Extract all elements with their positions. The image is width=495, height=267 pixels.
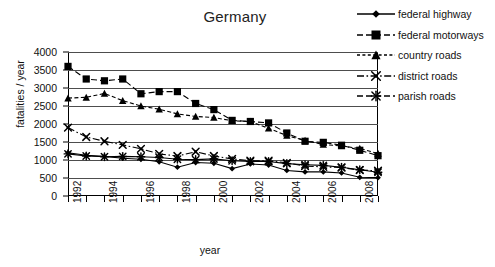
x-tick-mark (305, 196, 306, 202)
legend-marker-x-cross-icon (356, 69, 396, 83)
x-tick-mark (378, 196, 379, 202)
x-axis-title: year (150, 244, 270, 256)
asterisk-marker (210, 155, 218, 163)
legend-item-parish-roads[interactable]: parish roads (356, 86, 495, 107)
legend-item-federal-highway[interactable]: federal highway (356, 4, 495, 25)
y-tick-label: 0 (51, 191, 57, 202)
diamond-marker (175, 164, 181, 170)
x-tick-label: 2000 (218, 181, 229, 203)
asterisk-marker (101, 153, 109, 161)
asterisk-marker (155, 154, 163, 162)
plot-area (68, 52, 378, 196)
series-federal-highway (65, 150, 381, 181)
legend-marker-square-icon (356, 28, 396, 42)
asterisk-marker (228, 157, 236, 165)
x-tick-mark (269, 196, 270, 202)
x-tick-label: 2002 (254, 181, 265, 203)
series-federal-motorways (64, 63, 381, 159)
x-tick-label: 1998 (181, 181, 192, 203)
x-axis-tick-labels: 199219941996199820002002200420062008 (68, 203, 378, 243)
x-cross-marker (83, 134, 90, 141)
x-tick-label: 1994 (108, 181, 119, 203)
y-tick-label: 1000 (34, 155, 57, 166)
y-tick-label: 4000 (34, 47, 57, 58)
x-tick-mark (232, 196, 233, 202)
asterisk-marker (64, 150, 72, 158)
y-tick-label: 2500 (34, 101, 57, 112)
series-line (68, 154, 378, 172)
legend-label: parish roads (398, 90, 456, 102)
asterisk-marker (338, 163, 346, 171)
square-marker (137, 90, 144, 97)
y-tick-label: 500 (39, 173, 57, 184)
chart-legend: federal highwayfederal motorwayscountry … (356, 4, 495, 107)
x-tick-mark (250, 196, 251, 202)
x-tick-mark (68, 196, 69, 202)
square-marker (174, 88, 181, 95)
diamond-marker (284, 168, 290, 174)
legend-item-district-roads[interactable]: district roads (356, 66, 495, 87)
x-tick-mark (287, 196, 288, 202)
legend-item-federal-motorways[interactable]: federal motorways (356, 25, 495, 46)
diamond-marker (302, 169, 308, 175)
y-tick-label: 3000 (34, 83, 57, 94)
x-tick-label: 2006 (327, 181, 338, 203)
legend-label: federal motorways (398, 29, 484, 41)
legend-marker-diamond-icon (356, 7, 396, 21)
asterisk-marker (174, 155, 182, 163)
x-tick-mark (86, 196, 87, 202)
y-axis-tick-labels: 05001000150020002500300035004000 (0, 52, 64, 196)
triangle-marker (101, 90, 108, 97)
asterisk-marker (192, 156, 200, 164)
square-marker (156, 88, 163, 95)
x-tick-mark (323, 196, 324, 202)
square-marker (372, 30, 381, 39)
x-tick-mark (360, 196, 361, 202)
x-tick-mark (342, 196, 343, 202)
triangle-marker (119, 97, 126, 104)
square-marker (64, 63, 71, 70)
x-tick-mark (214, 196, 215, 202)
x-tick-mark (123, 196, 124, 202)
asterisk-marker (356, 166, 364, 174)
x-tick-label: 2008 (364, 181, 375, 203)
square-marker (192, 100, 199, 107)
series-line (68, 66, 378, 155)
x-tick-mark (177, 196, 178, 202)
x-tick-mark (141, 196, 142, 202)
asterisk-marker (283, 160, 291, 168)
asterisk-marker (319, 162, 327, 170)
asterisk-marker (371, 92, 380, 101)
square-marker (101, 77, 108, 84)
diamond-marker (357, 174, 363, 180)
asterisk-marker (301, 161, 309, 169)
asterisk-marker (265, 158, 273, 166)
legend-label: country roads (398, 49, 462, 61)
chart-figure: Germany fatalities / year 05001000150020… (0, 0, 495, 267)
asterisk-marker (119, 153, 127, 161)
y-tick-label: 1500 (34, 137, 57, 148)
series-line (68, 93, 378, 153)
x-tick-mark (196, 196, 197, 202)
square-marker (83, 75, 90, 82)
legend-label: district roads (398, 70, 458, 82)
legend-marker-triangle-icon (356, 48, 396, 62)
data-series-layer (68, 52, 378, 196)
asterisk-marker (247, 158, 255, 166)
x-tick-label: 1996 (145, 181, 156, 203)
diamond-marker (372, 10, 380, 18)
x-tick-label: 2004 (291, 181, 302, 203)
asterisk-marker (374, 168, 382, 176)
x-tick-label: 1992 (72, 181, 83, 203)
x-cross-marker (65, 124, 72, 131)
square-marker (119, 75, 126, 82)
legend-marker-asterisk-icon (356, 89, 396, 103)
triangle-marker (210, 114, 217, 121)
legend-item-country-roads[interactable]: country roads (356, 45, 495, 66)
asterisk-marker (82, 152, 90, 160)
asterisk-marker (137, 153, 145, 161)
x-tick-mark (104, 196, 105, 202)
series-line (68, 128, 378, 171)
y-tick-label: 3500 (34, 65, 57, 76)
square-marker (210, 106, 217, 113)
